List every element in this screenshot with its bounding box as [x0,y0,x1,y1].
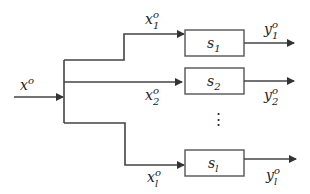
output-2-label: yo2 [263,85,278,107]
branch-1-line [64,34,184,60]
ellipsis-icon: ⋮ [211,110,226,128]
output-1-label: yo1 [263,19,278,41]
branch-2-signal-label: xo2 [145,85,159,107]
branch-l-signal-label: xol [147,167,161,189]
input-label: xo [20,75,34,93]
branch-1-signal-label: xo1 [145,9,159,31]
block-diagram: xo xo1 s1 yo1 xo2 s2 yo2 ⋮ xol sl yol [0,0,310,194]
output-l-label: yol [265,165,280,187]
branch-l-line [64,123,184,165]
diagram-canvas: xo xo1 s1 yo1 xo2 s2 yo2 ⋮ xol sl yol [0,0,310,194]
